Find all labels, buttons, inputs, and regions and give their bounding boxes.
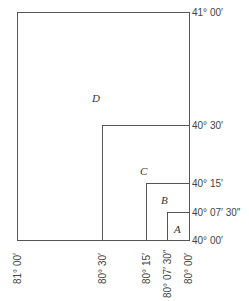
lat-40-15: 40° 15′	[192, 178, 223, 189]
region-c-label: C	[140, 165, 147, 177]
lat-41-00: 41° 00′	[192, 7, 223, 18]
box-15-top	[146, 183, 190, 184]
lon-81-00: 81° 00′	[12, 253, 23, 284]
box-30-top	[102, 125, 190, 126]
lat-40-30: 40° 30′	[192, 120, 223, 131]
lat-40-07-30: 40° 07′ 30″	[192, 207, 240, 218]
box-30-left	[102, 125, 103, 241]
outer-right-line	[189, 12, 190, 241]
outer-left-line	[17, 12, 18, 241]
region-d-label: D	[92, 92, 100, 104]
outer-bottom-line	[17, 240, 190, 241]
region-a-label: A	[174, 223, 181, 235]
lon-80-00: 80° 00′	[183, 253, 194, 284]
region-b-label: B	[161, 194, 168, 206]
box-7-5-left	[167, 212, 168, 241]
box-7-5-top	[167, 212, 190, 213]
lon-80-07-30: 80° 07′ 30″	[162, 250, 173, 298]
lon-80-30: 80° 30′	[97, 253, 108, 284]
lon-80-15: 80° 15′	[141, 253, 152, 284]
lat-40-00: 40° 00′	[192, 235, 223, 246]
outer-top-line	[17, 12, 190, 13]
box-15-left	[146, 183, 147, 241]
